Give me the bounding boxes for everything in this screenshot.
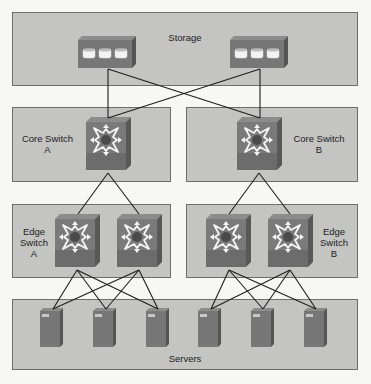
edge-a-label-line2: Switch <box>14 237 54 248</box>
core-a-label-line1: Core Switch <box>15 133 80 144</box>
storage-label: Storage <box>155 32 215 43</box>
core-b-label-line1: Core Switch <box>286 133 352 144</box>
edge-a-label-line3: A <box>14 248 54 259</box>
edge-a-label: Edge Switch A <box>14 226 54 259</box>
core-a-label: Core Switch A <box>15 133 80 155</box>
servers-label: Servers <box>155 353 215 364</box>
storage-zone <box>12 12 358 86</box>
storage-array-1 <box>78 36 138 70</box>
server-2-icon <box>93 308 117 348</box>
server-1-icon <box>40 308 64 348</box>
edge-b-label-line1: Edge <box>314 226 354 237</box>
core-b-label: Core Switch B <box>286 133 352 155</box>
edge-b-label: Edge Switch B <box>314 226 354 259</box>
storage-array-2 <box>230 36 290 70</box>
server-5-icon <box>251 308 275 348</box>
edge-switch-a1-icon <box>55 214 101 269</box>
edge-switch-b2-icon <box>268 214 314 269</box>
core-a-label-line2: A <box>15 144 80 155</box>
edge-b-label-line2: Switch <box>314 237 354 248</box>
server-4-icon <box>198 308 222 348</box>
server-3-icon <box>146 308 170 348</box>
edge-a-label-line1: Edge <box>14 226 54 237</box>
server-6-icon <box>304 308 328 348</box>
core-switch-b-icon <box>237 117 283 172</box>
edge-switch-b1-icon <box>206 214 252 269</box>
edge-b-label-line3: B <box>314 248 354 259</box>
core-switch-a-icon <box>86 117 132 172</box>
core-b-label-line2: B <box>286 144 352 155</box>
edge-switch-a2-icon <box>117 214 163 269</box>
